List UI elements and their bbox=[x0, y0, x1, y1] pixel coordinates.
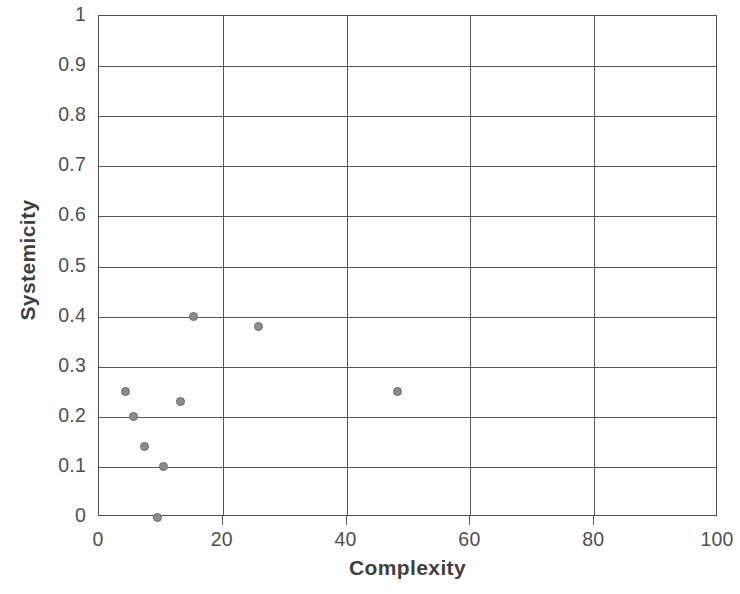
data-point bbox=[393, 387, 402, 396]
data-point bbox=[189, 312, 198, 321]
y-axis-tick-label: 1 bbox=[26, 5, 86, 25]
gridline-vertical bbox=[223, 16, 224, 515]
data-point bbox=[129, 412, 138, 421]
x-axis-tick-mark bbox=[469, 516, 470, 525]
gridline-horizontal bbox=[99, 467, 716, 468]
x-axis-title: Complexity bbox=[98, 556, 717, 580]
x-axis-tick-label: 0 bbox=[63, 530, 133, 550]
scatter-chart: 00.10.20.30.40.50.60.70.80.91 0204060801… bbox=[0, 0, 740, 594]
gridline-vertical bbox=[347, 16, 348, 515]
x-axis-tick-mark bbox=[593, 516, 594, 525]
data-point bbox=[153, 513, 162, 522]
gridline-horizontal bbox=[99, 116, 716, 117]
gridline-horizontal bbox=[99, 66, 716, 67]
data-point bbox=[254, 322, 263, 331]
y-axis-tick-label: 0.1 bbox=[26, 456, 86, 476]
gridline-horizontal bbox=[99, 417, 716, 418]
x-axis-tick-label: 60 bbox=[434, 530, 504, 550]
data-point bbox=[121, 387, 130, 396]
x-axis-tick-label: 40 bbox=[311, 530, 381, 550]
data-point bbox=[140, 442, 149, 451]
data-point bbox=[176, 397, 185, 406]
x-axis-tick-mark bbox=[346, 516, 347, 525]
x-axis-tick-label: 80 bbox=[558, 530, 628, 550]
y-axis-tick-label: 0.2 bbox=[26, 406, 86, 426]
x-axis-tick-mark bbox=[222, 516, 223, 525]
gridline-vertical bbox=[470, 16, 471, 515]
x-axis-tick-label: 20 bbox=[187, 530, 257, 550]
data-point bbox=[159, 462, 168, 471]
gridline-horizontal bbox=[99, 267, 716, 268]
gridline-horizontal bbox=[99, 367, 716, 368]
gridline-horizontal bbox=[99, 166, 716, 167]
y-axis-tick-label: 0 bbox=[26, 506, 86, 526]
y-axis-title: Systemicity bbox=[16, 150, 40, 370]
y-axis-tick-label: 0.8 bbox=[26, 105, 86, 125]
gridline-vertical bbox=[594, 16, 595, 515]
x-axis-tick-label: 100 bbox=[682, 530, 740, 550]
gridline-horizontal bbox=[99, 216, 716, 217]
y-axis-tick-label: 0.9 bbox=[26, 55, 86, 75]
plot-area bbox=[98, 15, 717, 516]
